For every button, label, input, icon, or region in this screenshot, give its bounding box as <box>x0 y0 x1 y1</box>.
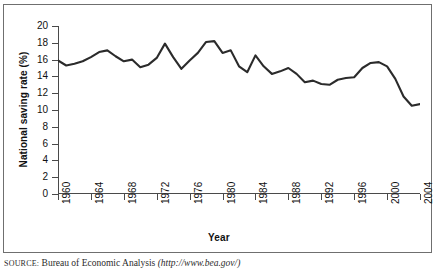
source-caption: SOURCE: Bureau of Economic Analysis (htt… <box>4 258 434 268</box>
x-tick-mark <box>288 194 289 200</box>
x-tick-mark <box>387 194 388 200</box>
y-tick-label: 20 <box>20 21 48 31</box>
x-tick-mark <box>157 194 158 200</box>
x-tick-mark <box>354 194 355 200</box>
y-tick-label: 12 <box>20 88 48 98</box>
x-axis-title: Year <box>0 232 438 243</box>
figure-national-saving-rate: National saving rate (%) 024681012141618… <box>0 0 438 273</box>
x-tick-mark <box>190 194 191 200</box>
y-tick-label: 16 <box>20 55 48 65</box>
x-tick-mark <box>321 194 322 200</box>
y-tick-label: 6 <box>20 139 48 149</box>
x-tick-mark <box>255 194 256 200</box>
y-tick-label: 0 <box>20 189 48 199</box>
x-tick-mark <box>420 194 421 200</box>
y-tick-label: 8 <box>20 122 48 132</box>
x-tick-mark <box>124 194 125 200</box>
source-prefix: SOURCE: <box>4 259 39 268</box>
y-tick-label: 14 <box>20 71 48 81</box>
y-tick-label: 18 <box>20 38 48 48</box>
y-tick-label: 10 <box>20 105 48 115</box>
x-tick-label: 2004 <box>424 182 434 204</box>
data-line-national-saving-rate <box>58 26 420 194</box>
y-tick-label: 2 <box>20 172 48 182</box>
y-tick-label: 4 <box>20 155 48 165</box>
source-organization: Bureau of Economic Analysis <box>42 258 156 268</box>
x-tick-mark <box>58 194 59 200</box>
x-tick-mark <box>91 194 92 200</box>
x-tick-mark <box>223 194 224 200</box>
source-url: (http://www.bea.gov/) <box>158 258 241 268</box>
